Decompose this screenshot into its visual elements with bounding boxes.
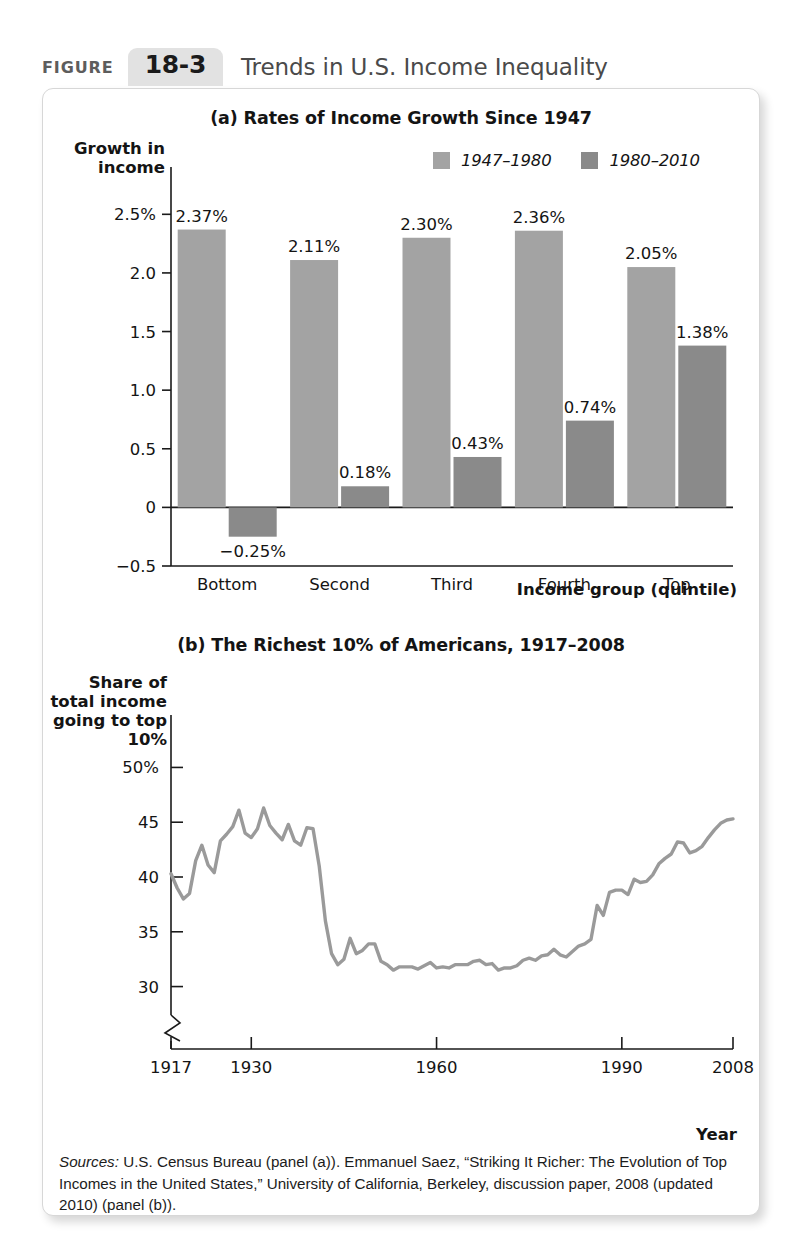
svg-text:30: 30 xyxy=(138,978,159,997)
svg-text:1930: 1930 xyxy=(230,1058,272,1077)
svg-text:40: 40 xyxy=(138,868,159,887)
svg-text:1960: 1960 xyxy=(416,1058,458,1077)
sources-note: Sources: U.S. Census Bureau (panel (a)).… xyxy=(59,1151,749,1216)
svg-text:45: 45 xyxy=(138,813,159,832)
figure-number-tab: 18-3 xyxy=(128,48,223,85)
svg-text:2008: 2008 xyxy=(712,1058,754,1077)
sources-label: Sources: xyxy=(59,1153,119,1170)
svg-text:1917: 1917 xyxy=(150,1058,192,1077)
figure-header: FIGURE 18-3 Trends in U.S. Income Inequa… xyxy=(42,44,608,90)
svg-text:50%: 50% xyxy=(122,758,159,777)
figure-title: Trends in U.S. Income Inequality xyxy=(223,54,608,80)
panel-b-line-chart: 3035404550%19171930196019902008 xyxy=(43,89,761,1149)
svg-text:35: 35 xyxy=(138,923,159,942)
figure-label: FIGURE xyxy=(42,58,128,77)
svg-text:1990: 1990 xyxy=(601,1058,643,1077)
panel-b-x-axis-label: Year xyxy=(696,1125,737,1144)
figure-card: (a) Rates of Income Growth Since 1947 Gr… xyxy=(42,88,760,1216)
sources-text: U.S. Census Bureau (panel (a)). Emmanuel… xyxy=(59,1153,727,1213)
